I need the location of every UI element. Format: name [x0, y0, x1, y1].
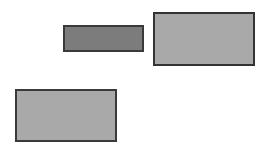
bottom-left-rectangle [15, 89, 117, 142]
top-right-rectangle [153, 12, 255, 66]
canvas [0, 0, 266, 152]
dark-rectangle [63, 25, 144, 52]
